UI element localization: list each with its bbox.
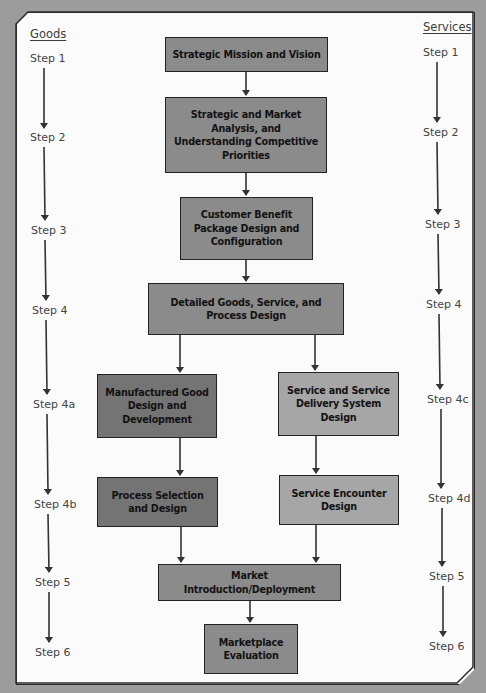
goods-step-4b: Step 4b [34, 498, 77, 511]
goods-step-4: Step 4 [32, 304, 68, 317]
box-market-introduction: Market Introduction/Deployment [158, 564, 341, 601]
goods-step-2: Step 2 [30, 131, 66, 144]
goods-step-5: Step 5 [35, 576, 71, 589]
box-manufactured-good-design: Manufactured Good Design and Development [97, 374, 217, 438]
box-service-delivery-system: Service and Service Delivery System Desi… [278, 372, 399, 436]
goods-step-6: Step 6 [35, 646, 71, 659]
box-marketplace-evaluation: Marketplace Evaluation [204, 624, 298, 674]
box-strategic-analysis: Strategic and Market Analysis, and Under… [165, 97, 327, 173]
box-process-selection: Process Selection and Design [97, 477, 218, 527]
services-step-4: Step 4 [426, 298, 462, 311]
services-step-4c: Step 4c [427, 393, 469, 406]
box-customer-benefit-package: Customer Benefit Package Design and Conf… [180, 197, 313, 260]
services-step-6: Step 6 [429, 640, 465, 653]
services-step-1: Step 1 [423, 46, 459, 59]
box-service-encounter: Service Encounter Design [279, 475, 399, 525]
box-strategic-mission: Strategic Mission and Vision [165, 37, 328, 72]
box-detailed-design: Detailed Goods, Service, and Process Des… [148, 283, 344, 335]
goods-step-1: Step 1 [30, 52, 66, 65]
goods-step-3: Step 3 [31, 224, 67, 237]
goods-step-4a: Step 4a [33, 398, 75, 411]
services-column-title: Services [423, 20, 472, 34]
services-step-4d: Step 4d [428, 492, 471, 505]
services-step-5: Step 5 [429, 570, 465, 583]
services-step-3: Step 3 [425, 218, 461, 231]
goods-column-title: Goods [30, 27, 66, 41]
services-step-2: Step 2 [423, 126, 459, 139]
